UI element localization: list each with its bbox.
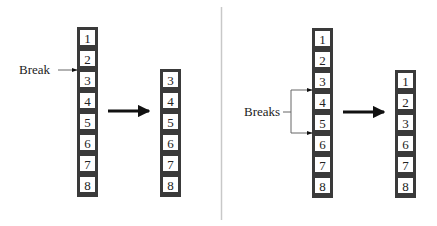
segment-label: 5: [319, 116, 326, 131]
segment-7: 7: [80, 156, 95, 172]
segment-label: 4: [84, 94, 91, 109]
segment-8: 8: [398, 178, 413, 194]
segment-7: 7: [163, 156, 178, 172]
segment-label: 1: [402, 74, 409, 89]
segment-5: 5: [163, 114, 178, 130]
segment-label: 6: [84, 136, 91, 151]
breaks-bracket: [283, 90, 312, 133]
segment-label: 5: [167, 115, 174, 130]
segment-label: 3: [84, 73, 91, 88]
break-label: Break: [19, 62, 51, 77]
segment-label: 4: [319, 95, 326, 110]
segment-label: 4: [167, 94, 174, 109]
segment-6: 6: [80, 135, 95, 151]
segment-8: 8: [163, 177, 178, 193]
segment-label: 6: [402, 137, 409, 152]
segment-6: 6: [163, 135, 178, 151]
segment-6: 6: [315, 136, 330, 152]
segment-3: 3: [163, 72, 178, 88]
segment-2: 2: [398, 94, 413, 110]
segment-4: 4: [315, 94, 330, 110]
result-chromosome: 123678: [395, 70, 416, 198]
segment-label: 7: [402, 158, 409, 173]
segment-5: 5: [315, 115, 330, 131]
source-chromosome: 12345678: [77, 27, 98, 197]
segment-4: 4: [80, 93, 95, 109]
segment-4: 4: [163, 93, 178, 109]
breaks-label: Breaks: [244, 104, 280, 119]
segment-label: 1: [84, 31, 91, 46]
segment-label: 2: [402, 95, 409, 110]
segment-7: 7: [398, 157, 413, 173]
segment-label: 7: [167, 157, 174, 172]
segment-1: 1: [315, 31, 330, 47]
left-panel: 12345678345678Break: [19, 27, 181, 197]
segment-label: 8: [167, 178, 174, 193]
segment-label: 5: [84, 115, 91, 130]
segment-6: 6: [398, 136, 413, 152]
chromosome-break-diagram: 12345678345678Break 12345678123678Breaks: [0, 0, 437, 226]
segment-2: 2: [80, 51, 95, 67]
segment-label: 1: [319, 32, 326, 47]
segment-3: 3: [315, 73, 330, 89]
segment-label: 2: [84, 52, 91, 67]
segment-8: 8: [80, 177, 95, 193]
segment-label: 6: [319, 137, 326, 152]
segment-5: 5: [80, 114, 95, 130]
segment-1: 1: [398, 73, 413, 89]
segment-label: 8: [402, 179, 409, 194]
segment-label: 8: [319, 179, 326, 194]
segment-label: 3: [402, 116, 409, 131]
segment-label: 7: [319, 158, 326, 173]
segment-label: 6: [167, 136, 174, 151]
segment-7: 7: [315, 157, 330, 173]
segment-1: 1: [80, 30, 95, 46]
result-chromosome: 345678: [160, 69, 181, 197]
segment-label: 7: [84, 157, 91, 172]
source-chromosome: 12345678: [312, 28, 333, 198]
segment-3: 3: [80, 72, 95, 88]
segment-label: 3: [167, 73, 174, 88]
right-panel: 12345678123678Breaks: [244, 28, 416, 198]
segment-8: 8: [315, 178, 330, 194]
segment-label: 8: [84, 178, 91, 193]
segment-2: 2: [315, 52, 330, 68]
segment-label: 2: [319, 53, 326, 68]
segment-3: 3: [398, 115, 413, 131]
segment-label: 3: [319, 74, 326, 89]
